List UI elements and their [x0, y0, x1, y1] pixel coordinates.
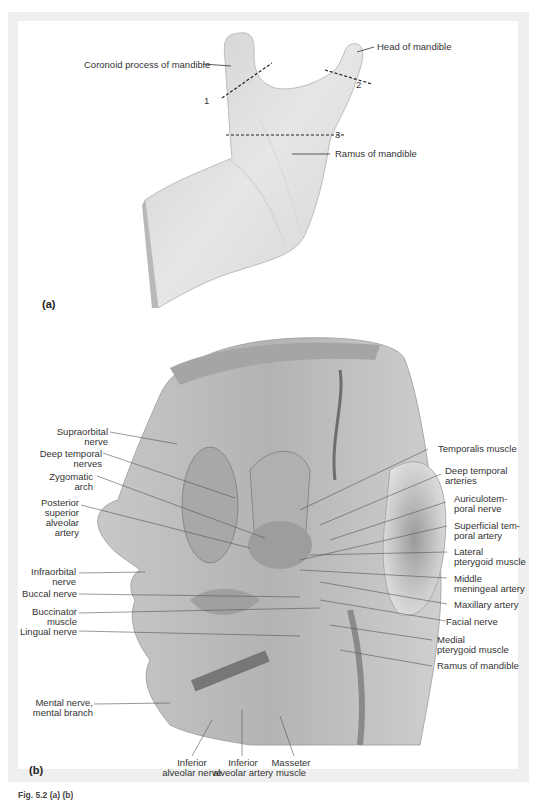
- head-dissection-illustration: [98, 338, 446, 745]
- label-lateral-pterygoid-muscle: Lateralpterygoid muscle: [454, 547, 526, 567]
- anatomy-illustration: [0, 0, 545, 801]
- label-lingual-nerve: Lingual nerve: [20, 627, 77, 637]
- label-supraorbital-nerve: Supraorbitalnerve: [57, 427, 108, 447]
- panel-label-a: (a): [42, 298, 55, 310]
- label-posterior-superior-alveolar-artery: Posteriorsuperior alveolarartery: [41, 498, 79, 538]
- label-ramus-of-mandible-b: Ramus of mandible: [437, 661, 519, 671]
- label-cut-3: 3: [335, 130, 340, 140]
- label-medial-pterygoid-muscle: Medialpterygoid muscle: [437, 635, 509, 655]
- label-cut-2: 2: [356, 80, 361, 90]
- label-temporalis-muscle: Temporalis muscle: [438, 444, 517, 454]
- label-masseter-muscle: Massetermuscle: [266, 758, 316, 778]
- panel-label-b: (b): [29, 764, 43, 776]
- label-head-of-mandible: Head of mandible: [377, 42, 451, 52]
- label-zygomatic-arch: Zygomaticarch: [49, 472, 93, 492]
- label-superficial-temporal-artery: Superficial tem-poral artery: [454, 521, 520, 541]
- label-buccinator-muscle: Buccinatormuscle: [32, 607, 77, 627]
- label-coronoid-process: Coronoid process of mandible: [84, 60, 210, 70]
- label-maxillary-artery: Maxillary artery: [454, 600, 518, 610]
- label-facial-nerve: Facial nerve: [446, 617, 498, 627]
- label-deep-temporal-nerves: Deep temporalnerves: [40, 449, 102, 469]
- label-buccal-nerve: Buccal nerve: [22, 589, 77, 599]
- label-auriculotemporal-nerve: Auriculotem-poral nerve: [454, 494, 507, 514]
- label-middle-meningeal-artery: Middlemeningeal artery: [454, 574, 525, 594]
- label-ramus-of-mandible-a: Ramus of mandible: [335, 149, 417, 159]
- mandible-illustration: [142, 33, 363, 308]
- label-deep-temporal-arteries: Deep temporalarteries: [445, 466, 507, 486]
- label-cut-1: 1: [204, 96, 209, 106]
- label-infraorbital-nerve: Infraorbitalnerve: [31, 567, 76, 587]
- figure-caption: Fig. 5.2 (a) (b): [18, 790, 73, 801]
- label-mental-nerve: Mental nerve,mental branch: [33, 698, 93, 718]
